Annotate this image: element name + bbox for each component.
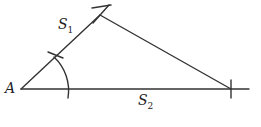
side-third xyxy=(100,15,231,89)
triangle-construction-diagram: A S1 S2 xyxy=(0,0,261,127)
side1-subscript: 1 xyxy=(68,25,74,35)
side2-subscript: 2 xyxy=(148,101,154,111)
side-label-s2: S2 xyxy=(138,92,153,111)
angle-arc xyxy=(54,57,69,98)
vertex-letter: A xyxy=(5,80,15,96)
side2-letter: S xyxy=(138,92,148,108)
vertex-label-a: A xyxy=(5,80,15,96)
diagram-svg xyxy=(0,0,261,127)
side-label-s1: S1 xyxy=(58,16,73,35)
side1-letter: S xyxy=(58,16,68,32)
